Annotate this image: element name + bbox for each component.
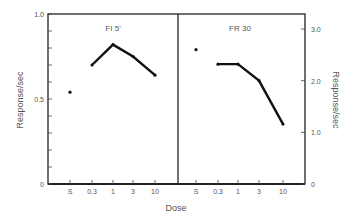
data-point (236, 63, 239, 66)
right-y-axis: 01.02.03.0 (301, 26, 321, 188)
series-fi5 (68, 43, 156, 94)
right-y-tick-label: 2.0 (311, 78, 321, 85)
data-point (257, 79, 260, 82)
right-y-tick-label: 1.0 (311, 129, 321, 136)
plot-frame (48, 14, 305, 184)
left-y-tick-label: 0 (40, 181, 44, 188)
series-fr30 (194, 48, 284, 126)
x-tick-label: 0.3 (213, 188, 223, 195)
right-y-tick-label: 0 (311, 181, 315, 188)
data-point (281, 122, 284, 125)
x-tick-label: 0.3 (87, 188, 97, 195)
right-y-tick-label: 3.0 (311, 26, 321, 33)
right-y-axis-label: Response/sec (331, 71, 341, 129)
data-point (131, 55, 134, 58)
data-point (111, 43, 114, 46)
left-y-axis-label: Response/sec (15, 71, 25, 129)
x-tick-label: 10 (279, 188, 287, 195)
right-panel-title: FR 30 (229, 24, 251, 33)
x-tick-label: S (68, 188, 73, 195)
x-tick-label: 1 (236, 188, 240, 195)
x-tick-label: 10 (151, 188, 159, 195)
data-point (194, 48, 197, 51)
left-y-tick-label: 1.0 (34, 11, 44, 18)
data-point (153, 74, 156, 77)
left-panel-title: FI 5' (105, 24, 121, 33)
x-tick-label: S (194, 188, 199, 195)
data-point (68, 91, 71, 94)
x-tick-label: 3 (131, 188, 135, 195)
dose-response-chart: 00.51.0 01.02.03.0 S0.31310S0.31310 FI 5… (0, 0, 352, 222)
data-point (90, 63, 93, 66)
left-y-axis: 00.51.0 (34, 11, 52, 188)
left-y-tick-label: 0.5 (34, 96, 44, 103)
x-axis-label: Dose (165, 203, 186, 213)
x-axis-ticks: S0.31310S0.31310 (68, 180, 287, 195)
data-point (216, 63, 219, 66)
x-tick-label: 3 (257, 188, 261, 195)
x-tick-label: 1 (111, 188, 115, 195)
